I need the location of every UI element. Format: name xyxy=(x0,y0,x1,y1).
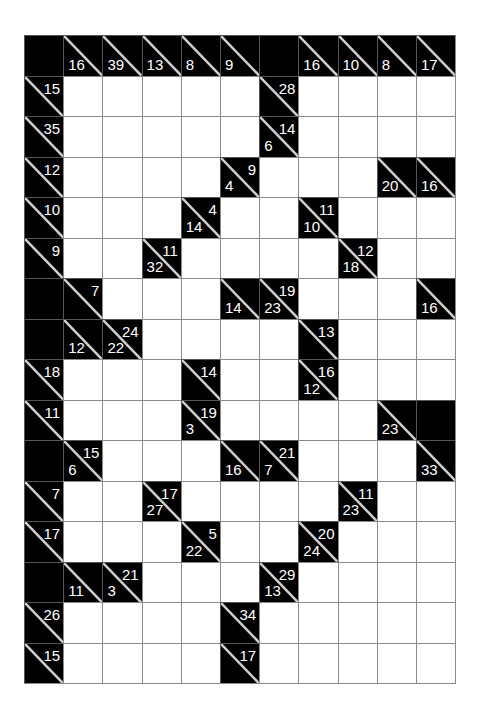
entry-cell[interactable] xyxy=(298,157,337,198)
entry-cell[interactable] xyxy=(142,440,181,481)
entry-cell[interactable] xyxy=(102,602,141,643)
entry-cell[interactable] xyxy=(338,440,377,481)
entry-cell[interactable] xyxy=(63,116,102,157)
entry-cell[interactable] xyxy=(338,562,377,603)
entry-cell[interactable] xyxy=(102,440,141,481)
entry-cell[interactable] xyxy=(377,197,416,238)
entry-cell[interactable] xyxy=(102,521,141,562)
entry-cell[interactable] xyxy=(63,481,102,522)
entry-cell[interactable] xyxy=(298,562,337,603)
entry-cell[interactable] xyxy=(298,643,337,684)
entry-cell[interactable] xyxy=(298,440,337,481)
entry-cell[interactable] xyxy=(259,359,298,400)
entry-cell[interactable] xyxy=(298,602,337,643)
entry-cell[interactable] xyxy=(220,562,259,603)
entry-cell[interactable] xyxy=(181,481,220,522)
entry-cell[interactable] xyxy=(181,562,220,603)
entry-cell[interactable] xyxy=(338,359,377,400)
entry-cell[interactable] xyxy=(416,481,455,522)
entry-cell[interactable] xyxy=(181,440,220,481)
entry-cell[interactable] xyxy=(63,157,102,198)
entry-cell[interactable] xyxy=(298,278,337,319)
entry-cell[interactable] xyxy=(377,238,416,279)
entry-cell[interactable] xyxy=(102,157,141,198)
entry-cell[interactable] xyxy=(63,400,102,441)
entry-cell[interactable] xyxy=(338,116,377,157)
entry-cell[interactable] xyxy=(63,76,102,117)
entry-cell[interactable] xyxy=(181,157,220,198)
entry-cell[interactable] xyxy=(259,602,298,643)
entry-cell[interactable] xyxy=(142,157,181,198)
entry-cell[interactable] xyxy=(181,319,220,360)
entry-cell[interactable] xyxy=(142,278,181,319)
entry-cell[interactable] xyxy=(377,116,416,157)
entry-cell[interactable] xyxy=(298,76,337,117)
entry-cell[interactable] xyxy=(338,602,377,643)
entry-cell[interactable] xyxy=(63,238,102,279)
entry-cell[interactable] xyxy=(416,76,455,117)
entry-cell[interactable] xyxy=(416,359,455,400)
entry-cell[interactable] xyxy=(102,197,141,238)
entry-cell[interactable] xyxy=(298,400,337,441)
entry-cell[interactable] xyxy=(181,278,220,319)
entry-cell[interactable] xyxy=(220,521,259,562)
entry-cell[interactable] xyxy=(220,238,259,279)
entry-cell[interactable] xyxy=(377,359,416,400)
entry-cell[interactable] xyxy=(142,319,181,360)
entry-cell[interactable] xyxy=(298,481,337,522)
entry-cell[interactable] xyxy=(220,197,259,238)
entry-cell[interactable] xyxy=(102,359,141,400)
entry-cell[interactable] xyxy=(416,319,455,360)
entry-cell[interactable] xyxy=(338,157,377,198)
entry-cell[interactable] xyxy=(181,116,220,157)
entry-cell[interactable] xyxy=(142,359,181,400)
entry-cell[interactable] xyxy=(102,116,141,157)
entry-cell[interactable] xyxy=(416,602,455,643)
entry-cell[interactable] xyxy=(377,521,416,562)
entry-cell[interactable] xyxy=(259,238,298,279)
entry-cell[interactable] xyxy=(181,643,220,684)
entry-cell[interactable] xyxy=(338,197,377,238)
entry-cell[interactable] xyxy=(259,643,298,684)
entry-cell[interactable] xyxy=(63,197,102,238)
entry-cell[interactable] xyxy=(377,278,416,319)
entry-cell[interactable] xyxy=(377,440,416,481)
entry-cell[interactable] xyxy=(377,76,416,117)
entry-cell[interactable] xyxy=(377,602,416,643)
entry-cell[interactable] xyxy=(63,643,102,684)
entry-cell[interactable] xyxy=(142,197,181,238)
entry-cell[interactable] xyxy=(220,481,259,522)
entry-cell[interactable] xyxy=(220,359,259,400)
entry-cell[interactable] xyxy=(338,319,377,360)
entry-cell[interactable] xyxy=(181,602,220,643)
entry-cell[interactable] xyxy=(181,76,220,117)
entry-cell[interactable] xyxy=(102,400,141,441)
entry-cell[interactable] xyxy=(63,521,102,562)
entry-cell[interactable] xyxy=(142,643,181,684)
entry-cell[interactable] xyxy=(377,562,416,603)
entry-cell[interactable] xyxy=(142,116,181,157)
entry-cell[interactable] xyxy=(102,76,141,117)
entry-cell[interactable] xyxy=(259,157,298,198)
entry-cell[interactable] xyxy=(142,76,181,117)
entry-cell[interactable] xyxy=(102,643,141,684)
entry-cell[interactable] xyxy=(259,521,298,562)
entry-cell[interactable] xyxy=(142,521,181,562)
entry-cell[interactable] xyxy=(298,238,337,279)
entry-cell[interactable] xyxy=(259,481,298,522)
entry-cell[interactable] xyxy=(181,238,220,279)
entry-cell[interactable] xyxy=(416,116,455,157)
entry-cell[interactable] xyxy=(220,116,259,157)
entry-cell[interactable] xyxy=(102,481,141,522)
entry-cell[interactable] xyxy=(142,602,181,643)
entry-cell[interactable] xyxy=(416,238,455,279)
entry-cell[interactable] xyxy=(416,521,455,562)
entry-cell[interactable] xyxy=(220,319,259,360)
entry-cell[interactable] xyxy=(142,562,181,603)
entry-cell[interactable] xyxy=(338,278,377,319)
entry-cell[interactable] xyxy=(416,197,455,238)
entry-cell[interactable] xyxy=(220,400,259,441)
entry-cell[interactable] xyxy=(338,643,377,684)
entry-cell[interactable] xyxy=(63,602,102,643)
entry-cell[interactable] xyxy=(377,643,416,684)
